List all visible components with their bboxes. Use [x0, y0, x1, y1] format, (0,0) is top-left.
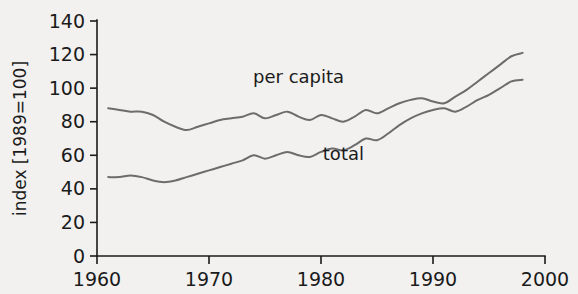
series-annotations: per capitatotal: [253, 66, 364, 164]
y-tick-label: 0: [73, 245, 85, 267]
x-axis-tick-labels: 19601970198019902000: [73, 268, 569, 290]
x-tick-label: 1980: [297, 268, 345, 290]
y-tick-label: 100: [49, 77, 85, 99]
axis-ticks: [90, 21, 545, 264]
chart-axes: [97, 20, 545, 256]
chart-container: 020406080100120140 19601970198019902000 …: [0, 0, 578, 294]
y-tick-label: 40: [61, 177, 85, 199]
y-tick-label: 80: [61, 110, 85, 132]
series-label-total: total: [323, 143, 364, 164]
series-line-per-capita: [108, 53, 522, 130]
x-tick-label: 1990: [409, 268, 457, 290]
y-tick-label: 140: [49, 10, 85, 32]
x-tick-label: 2000: [521, 268, 569, 290]
series-label-per-capita: per capita: [253, 66, 344, 87]
y-axis-title-text: index [1989=100]: [10, 61, 30, 216]
y-tick-label: 120: [49, 43, 85, 65]
y-axis-tick-labels: 020406080100120140: [49, 10, 85, 267]
y-tick-label: 60: [61, 144, 85, 166]
y-axis-title: index [1989=100]: [10, 61, 30, 216]
x-tick-label: 1970: [185, 268, 233, 290]
y-tick-label: 20: [61, 211, 85, 233]
x-tick-label: 1960: [73, 268, 121, 290]
line-chart: 020406080100120140 19601970198019902000 …: [0, 0, 578, 294]
series-line-total: [108, 80, 522, 182]
